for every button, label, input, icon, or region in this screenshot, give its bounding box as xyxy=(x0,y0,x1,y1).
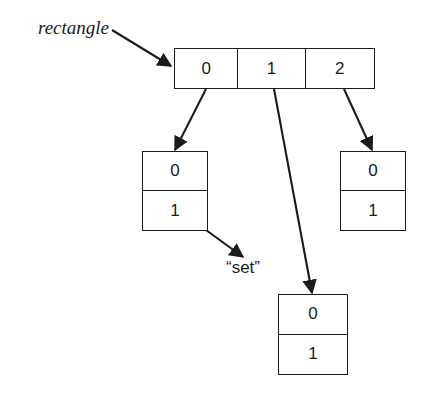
set-right-cell-0: 0 xyxy=(341,152,405,191)
rectangle-label: rectangle xyxy=(38,17,109,39)
set-right-cell-column: 0 1 xyxy=(341,152,405,230)
set-box-right: 0 1 xyxy=(340,151,406,231)
set-box-left: 0 1 xyxy=(142,151,208,231)
array-cell-2: 2 xyxy=(306,49,374,88)
set-left-cell-column: 0 1 xyxy=(143,152,207,230)
set-label: “set” xyxy=(226,258,260,278)
set-left-cell-1: 1 xyxy=(143,191,207,230)
rectangle-label-arrow xyxy=(112,30,171,66)
array-cell-row: 0 1 2 xyxy=(175,49,374,88)
set-middle-cell-1: 1 xyxy=(279,335,347,375)
set-right-cell-1: 1 xyxy=(341,191,405,230)
array-0-arrow xyxy=(175,89,206,150)
array-2-arrow xyxy=(344,89,372,150)
set-middle-cell-0: 0 xyxy=(279,295,347,335)
set-left-cell-0: 0 xyxy=(143,152,207,191)
array-1-arrow xyxy=(274,89,312,293)
set-box-middle: 0 1 xyxy=(278,294,348,375)
set-label-arrow xyxy=(206,230,243,257)
diagram-canvas: rectangle 0 1 2 0 1 0 1 0 1 “set” xyxy=(0,0,427,397)
array-cell-1: 1 xyxy=(238,49,305,88)
rectangle-array-box: 0 1 2 xyxy=(174,48,375,89)
array-cell-0: 0 xyxy=(175,49,238,88)
set-middle-cell-column: 0 1 xyxy=(279,295,347,374)
